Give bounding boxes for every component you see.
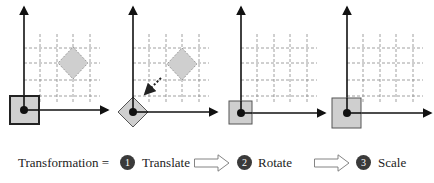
transformation-caption: Transformation = 1 Translate 2 Rotate 3 … bbox=[0, 151, 434, 175]
caption-label: Transformation = bbox=[18, 155, 109, 171]
origin-dot bbox=[129, 108, 137, 116]
step-badge-1: 1 bbox=[120, 155, 135, 170]
target-diamond bbox=[58, 47, 88, 79]
transformation-diagram bbox=[0, 0, 434, 150]
step-label-translate: Translate bbox=[142, 155, 190, 171]
panel-rotate bbox=[229, 7, 325, 124]
hollow-arrow-icon bbox=[314, 154, 350, 172]
target-diamond bbox=[167, 48, 197, 80]
panel-translate bbox=[118, 7, 217, 127]
step-badge-3: 3 bbox=[356, 155, 371, 170]
panel-scale bbox=[332, 7, 431, 128]
step-label-scale: Scale bbox=[378, 155, 406, 171]
origin-dot bbox=[237, 109, 245, 117]
panel-initial bbox=[10, 7, 108, 124]
grid bbox=[24, 34, 100, 102]
step-label-rotate: Rotate bbox=[258, 155, 292, 171]
grid bbox=[347, 34, 423, 102]
origin-dot bbox=[20, 106, 28, 114]
origin-dot bbox=[343, 109, 351, 117]
step-badge-2: 2 bbox=[237, 155, 252, 170]
hollow-arrow-icon bbox=[194, 154, 230, 172]
grid bbox=[241, 34, 317, 102]
